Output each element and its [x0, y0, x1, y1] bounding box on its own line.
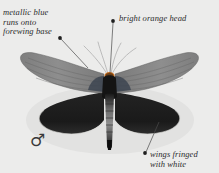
male-sex-symbol: ♂	[30, 130, 45, 150]
specimen-plate: metallic blue runs onto forewing base br…	[0, 0, 219, 173]
annotation-metallic-blue: metallic blue runs onto forewing base	[3, 8, 52, 37]
annotation-white-fringe: wings fringed with white	[150, 150, 198, 169]
leader-dot-metallic-blue	[58, 36, 62, 40]
leader-dot-orange-head	[111, 19, 115, 23]
annotation-orange-head: bright orange head	[119, 14, 186, 24]
leader-dot-white-fringe	[143, 151, 147, 155]
